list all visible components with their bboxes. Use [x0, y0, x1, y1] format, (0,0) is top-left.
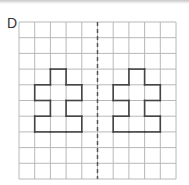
grid-diagram — [0, 0, 189, 185]
